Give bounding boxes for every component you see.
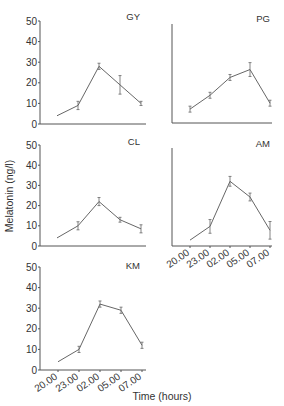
panel-title: AM	[256, 138, 270, 149]
y-tick-label: 40	[26, 160, 38, 171]
x-tick-label: 23.00	[53, 370, 80, 394]
y-tick-label: 0	[31, 365, 37, 376]
y-tick-label: 30	[26, 180, 38, 191]
error-bar	[189, 106, 192, 112]
y-tick-label: 10	[26, 220, 38, 231]
error-bar	[209, 220, 212, 234]
y-tick-label: 50	[26, 140, 38, 151]
y-tick-label: 20	[26, 200, 38, 211]
panel-title: KM	[126, 260, 140, 271]
melatonin-figure: 01020304050GYPG01020304050CL20.0023.0002…	[0, 0, 284, 406]
x-tick-label: 07.00	[244, 246, 271, 270]
y-tick-label: 30	[26, 57, 38, 68]
error-bar	[269, 222, 272, 240]
panel-title: CL	[128, 136, 140, 147]
y-tick-label: 40	[26, 282, 38, 293]
axis-lines	[172, 148, 272, 246]
y-axis-title: Melatonin (ng/l)	[3, 160, 15, 232]
y-tick-label: 50	[26, 16, 38, 27]
panel-cl: 01020304050CL	[26, 136, 146, 252]
y-tick-label: 10	[26, 344, 38, 355]
data-line	[190, 181, 270, 240]
y-tick-label: 50	[26, 262, 38, 273]
panel-pg: PG	[172, 13, 272, 123]
y-tick-label: 0	[31, 241, 37, 252]
y-tick-label: 0	[31, 119, 37, 130]
error-bar	[119, 76, 122, 95]
error-bar	[249, 193, 252, 201]
y-tick-label: 30	[26, 303, 38, 314]
error-bar	[209, 92, 212, 98]
data-line	[57, 202, 141, 238]
panel-title: PG	[256, 13, 270, 24]
panel-title: GY	[126, 11, 140, 22]
panel-km: 0102030405020.0023.0002.0005.0007.00KM	[26, 260, 146, 394]
axis-lines	[40, 145, 146, 246]
y-tick-label: 20	[26, 323, 38, 334]
axis-lines	[172, 24, 272, 123]
x-axis-title: Time (hours)	[132, 390, 191, 402]
panel-gy: 01020304050GY	[26, 11, 146, 130]
error-bar	[98, 198, 101, 206]
error-bar	[77, 222, 80, 230]
panels: 01020304050GYPG01020304050CL20.0023.0002…	[26, 11, 272, 394]
axis-lines	[40, 21, 146, 124]
x-tick-label: 05.00	[95, 370, 122, 394]
y-tick-label: 40	[26, 36, 38, 47]
x-tick-label: 02.00	[74, 370, 101, 394]
y-tick-label: 10	[26, 98, 38, 109]
data-line	[58, 304, 142, 362]
data-line	[57, 66, 141, 115]
y-tick-label: 20	[26, 77, 38, 88]
panel-am: 20.0023.0002.0005.0007.00AM	[164, 138, 272, 270]
